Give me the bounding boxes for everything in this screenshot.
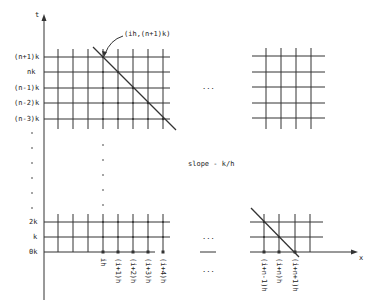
x-tick-label: (i+2)h bbox=[129, 258, 137, 283]
x-tick-label: (i+3)h bbox=[144, 258, 152, 283]
ellipsis: ... bbox=[202, 233, 215, 241]
ellipsis: ... bbox=[202, 83, 215, 91]
ellipsis: ... bbox=[202, 266, 215, 274]
slope-label: slope - k/h bbox=[188, 160, 234, 168]
y-tick-label: (n-3)k bbox=[14, 115, 39, 123]
y-tick-label: 2k bbox=[29, 218, 37, 226]
y-tick-label: k bbox=[33, 233, 37, 241]
y-tick-label: (n-1)k bbox=[14, 84, 39, 92]
y-tick-label: 0k bbox=[29, 248, 37, 256]
annotation-pointer bbox=[105, 36, 123, 54]
y-tick-label: nk bbox=[27, 68, 35, 76]
x-tick-label: (i+n-1)h bbox=[260, 258, 268, 292]
x-tick-label: (i+1)h bbox=[114, 258, 122, 283]
grid-diagram bbox=[0, 0, 380, 305]
y-tick-label: (n+1)k bbox=[14, 53, 39, 61]
x-tick-label: ih bbox=[99, 258, 107, 266]
x-tick-label: (i+n+1)h bbox=[291, 258, 299, 292]
t-axis-label: t bbox=[35, 11, 39, 19]
x-axis-label: x bbox=[359, 254, 363, 262]
x-axis-arrow-icon bbox=[351, 250, 358, 255]
x-tick-label: (i+4)h bbox=[159, 258, 167, 283]
annotation-point-label: (ih,(n+1)k) bbox=[124, 30, 170, 38]
characteristic-line-bottom bbox=[251, 208, 299, 257]
x-tick-label: (i+n)h bbox=[275, 258, 283, 283]
t-axis-arrow-icon bbox=[42, 14, 47, 21]
y-tick-label: (n-2)k bbox=[14, 99, 39, 107]
